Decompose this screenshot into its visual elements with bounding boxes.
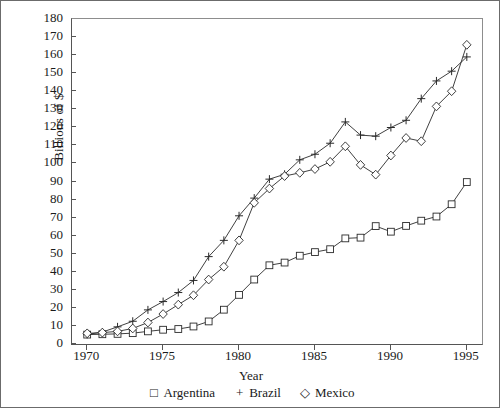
series-line xyxy=(87,182,467,335)
x-tick-mark xyxy=(238,345,239,350)
plus-marker xyxy=(326,139,334,147)
y-tick-label: 110 xyxy=(23,137,63,150)
y-tick-label: 90 xyxy=(23,174,63,187)
square-marker xyxy=(357,234,364,241)
square-marker xyxy=(342,235,349,242)
diamond-marker xyxy=(296,168,304,177)
legend-label: Mexico xyxy=(315,385,355,400)
y-tick-label: 50 xyxy=(23,246,63,259)
square-marker xyxy=(296,252,303,259)
y-tick-label: 60 xyxy=(23,228,63,241)
legend-entry-argentina: □Argentina xyxy=(147,385,215,401)
y-tick-mark xyxy=(71,343,76,344)
square-marker xyxy=(236,291,243,298)
square-marker xyxy=(403,223,410,230)
x-tick-mark xyxy=(314,345,315,350)
diamond-marker xyxy=(174,300,182,309)
x-tick-label: 1995 xyxy=(436,349,496,362)
x-tick-mark xyxy=(466,345,467,350)
x-tick-label: 1980 xyxy=(208,349,268,362)
y-tick-mark xyxy=(71,199,76,200)
square-marker xyxy=(220,306,227,313)
square-marker xyxy=(433,213,440,220)
y-tick-mark xyxy=(71,289,76,290)
square-marker xyxy=(387,228,394,235)
square-marker xyxy=(175,326,182,333)
y-tick-mark xyxy=(71,325,76,326)
diamond-marker xyxy=(280,172,288,181)
y-tick-label: 70 xyxy=(23,210,63,223)
square-marker xyxy=(281,259,288,266)
y-tick-mark xyxy=(71,253,76,254)
y-tick-label: 150 xyxy=(23,65,63,78)
y-tick-label: 10 xyxy=(23,318,63,331)
series-line xyxy=(87,45,467,334)
y-tick-label: 170 xyxy=(23,29,63,42)
diamond-marker xyxy=(159,310,167,319)
square-marker xyxy=(145,328,152,335)
diamond-marker xyxy=(220,262,228,271)
x-tick-label: 1990 xyxy=(360,349,420,362)
square-marker xyxy=(418,217,425,224)
plus-marker xyxy=(372,132,380,140)
legend-label: Argentina xyxy=(163,385,215,400)
series-mexico xyxy=(83,40,471,337)
square-marker xyxy=(327,246,334,253)
square-marker xyxy=(160,326,167,333)
plus-marker xyxy=(387,124,395,132)
y-tick-mark xyxy=(71,162,76,163)
plus-marker xyxy=(159,298,167,306)
x-tick-mark xyxy=(390,345,391,350)
diamond-marker xyxy=(144,318,152,327)
y-tick-mark xyxy=(71,126,76,127)
x-tick-mark xyxy=(162,345,163,350)
y-tick-label: 30 xyxy=(23,282,63,295)
square-marker: □ xyxy=(147,385,160,401)
y-tick-mark xyxy=(71,235,76,236)
y-tick-mark xyxy=(71,108,76,109)
y-tick-label: 160 xyxy=(23,47,63,60)
square-marker xyxy=(312,249,319,256)
y-tick-label: 100 xyxy=(23,155,63,168)
figure-container: Billions of $ 01020304050607080901001101… xyxy=(0,0,500,408)
x-tick-label: 1975 xyxy=(132,349,192,362)
series-line xyxy=(87,57,467,335)
y-tick-mark xyxy=(71,72,76,73)
y-tick-label: 80 xyxy=(23,192,63,205)
y-tick-mark xyxy=(71,307,76,308)
square-marker xyxy=(448,201,455,208)
y-tick-label: 180 xyxy=(23,11,63,24)
y-tick-mark xyxy=(71,36,76,37)
y-tick-label: 120 xyxy=(23,119,63,132)
diamond-marker xyxy=(463,40,471,49)
plus-marker xyxy=(144,306,152,314)
square-marker xyxy=(463,179,470,186)
x-tick-label: 1970 xyxy=(56,349,116,362)
y-tick-mark xyxy=(71,90,76,91)
diamond-marker xyxy=(311,165,319,174)
plus-marker xyxy=(402,116,410,124)
y-tick-label: 20 xyxy=(23,300,63,313)
y-tick-mark xyxy=(71,181,76,182)
plus-marker: + xyxy=(233,385,246,401)
y-tick-label: 40 xyxy=(23,264,63,277)
square-marker xyxy=(190,323,197,330)
legend-entry-brazil: +Brazil xyxy=(233,385,281,401)
diamond-marker: ◇ xyxy=(299,385,312,401)
legend-label: Brazil xyxy=(249,385,281,400)
y-tick-label: 0 xyxy=(23,336,63,349)
chart-svg xyxy=(72,19,482,344)
square-marker xyxy=(205,318,212,325)
y-tick-mark xyxy=(71,217,76,218)
square-marker xyxy=(372,223,379,230)
y-tick-mark xyxy=(71,54,76,55)
x-tick-label: 1985 xyxy=(284,349,344,362)
chart-legend: □Argentina+Brazil◇Mexico xyxy=(1,385,500,401)
y-tick-mark xyxy=(71,144,76,145)
x-axis-title: Year xyxy=(1,368,500,384)
square-marker xyxy=(251,276,258,283)
square-marker xyxy=(266,262,273,269)
diamond-marker xyxy=(417,137,425,146)
legend-entry-mexico: ◇Mexico xyxy=(299,385,355,401)
diamond-marker xyxy=(235,236,243,245)
